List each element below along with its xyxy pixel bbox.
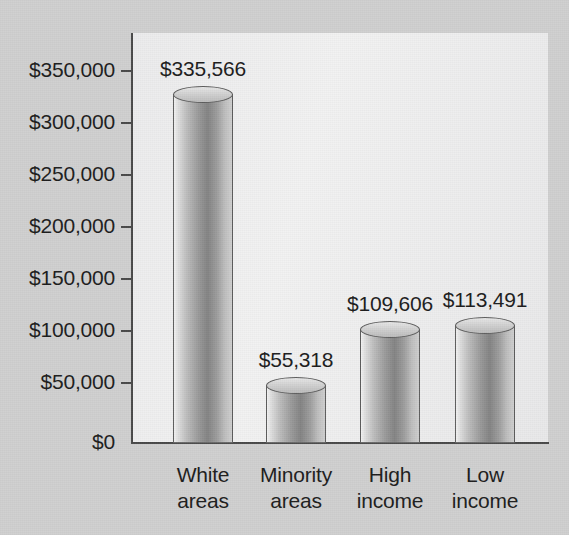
y-axis-tick-label: $200,000 xyxy=(0,214,115,238)
bar-value-label: $55,318 xyxy=(259,348,334,372)
bar: $335,566 xyxy=(173,86,233,443)
y-axis-tick-label: $0 xyxy=(0,430,115,454)
y-axis-tick-mark xyxy=(121,330,132,332)
y-axis-tick-mark xyxy=(121,70,132,72)
y-axis-tick-label: $300,000 xyxy=(0,110,115,134)
bar-value-label: $335,566 xyxy=(160,57,246,81)
y-axis-tick-mark xyxy=(121,278,132,280)
bar-value-label: $109,606 xyxy=(347,292,433,316)
y-axis-tick-mark xyxy=(121,174,132,176)
x-axis-category-label: Lowincome xyxy=(425,462,545,514)
category-label-line: Low xyxy=(425,462,545,488)
y-axis-tick-mark xyxy=(121,122,132,124)
bar: $109,606 xyxy=(360,321,420,443)
category-label-line: income xyxy=(425,488,545,514)
y-axis-tick-label: $100,000 xyxy=(0,318,115,342)
bar-body xyxy=(455,325,515,443)
bar-top-ellipse xyxy=(360,321,420,338)
bar-value-label: $113,491 xyxy=(443,288,527,312)
bar-chart: $0$50,000$100,000$150,000$200,000$250,00… xyxy=(0,0,569,535)
bar-top-ellipse xyxy=(455,317,515,334)
bar-top-ellipse xyxy=(173,86,233,103)
y-axis-tick-label: $50,000 xyxy=(0,370,115,394)
bar: $55,318 xyxy=(266,377,326,443)
bar: $113,491 xyxy=(455,317,515,443)
y-axis-tick-label: $150,000 xyxy=(0,266,115,290)
bar-body xyxy=(266,385,326,443)
y-axis-tick-label: $350,000 xyxy=(0,58,115,82)
bar-body xyxy=(173,94,233,443)
y-axis-tick-label: $250,000 xyxy=(0,162,115,186)
y-axis-tick-mark xyxy=(121,382,132,384)
bar-body xyxy=(360,329,420,443)
y-axis-tick-mark xyxy=(121,226,132,228)
